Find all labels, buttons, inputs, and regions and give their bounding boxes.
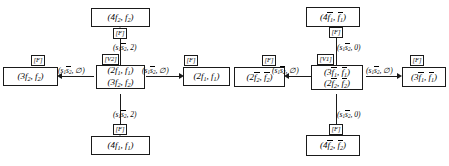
node-right-label: (3f1, f1) bbox=[411, 72, 437, 83]
edge-label-right-h: (s1s2, ∅) bbox=[366, 66, 393, 76]
node-right[interactable]: (3f1, f1) bbox=[402, 67, 446, 87]
node-center-label: (2f1, f1) bbox=[193, 71, 219, 83]
tag-center-F: [F] bbox=[184, 55, 198, 66]
edge-label-mid-h: (s1s2, ∅) bbox=[272, 66, 299, 76]
tag-bottom-right-F: [F] bbox=[329, 124, 343, 135]
tag-center-right-F: [F] bbox=[262, 55, 276, 66]
node-bottom-right[interactable]: (4f2, f2) bbox=[306, 135, 360, 156]
tag-left-F: [F] bbox=[31, 55, 45, 66]
node-center-left[interactable]: (2f1, f1) (3f2, f2) bbox=[96, 65, 145, 89]
node-left-label: (3f2, f2) bbox=[17, 71, 43, 83]
tag-right-F: [F] bbox=[410, 55, 424, 66]
node-center-left-label-2: (3f2, f2) bbox=[107, 77, 133, 89]
edge-label-down-left: (s1s2, 2) bbox=[113, 110, 136, 120]
state-transition-diagram: (4f2, f2) (4f1, f1) (3f2, f2) (2f1, f1) … bbox=[0, 0, 449, 166]
edge-right-horizontal bbox=[366, 76, 398, 77]
edge-left-horizontal bbox=[61, 76, 94, 77]
node-bottom-right-label: (4f2, f2) bbox=[320, 140, 346, 151]
node-center-left-label-1: (2f1, f1) bbox=[107, 65, 133, 77]
tag-center-left-V2: [V2] bbox=[102, 54, 119, 65]
tag-top-right-F: [F] bbox=[329, 27, 343, 38]
node-left[interactable]: (3f2, f2) bbox=[3, 67, 58, 86]
tag-bottom-left-F: [F] bbox=[113, 124, 127, 135]
edge-center-horizontal bbox=[146, 76, 180, 77]
node-right-mid-label-1: (3f1, f1) bbox=[324, 67, 350, 78]
tag-right-mid-V1: [V1] bbox=[317, 54, 334, 65]
tag-top-left-F: [F] bbox=[113, 28, 127, 39]
node-top-right-label: (4f1, f1) bbox=[320, 12, 346, 23]
node-right-mid-label-2: (2f2, f2) bbox=[324, 78, 350, 89]
node-bottom-left-label: (4f1, f1) bbox=[107, 140, 133, 152]
node-top-right[interactable]: (4f1, f1) bbox=[306, 7, 360, 27]
edge-label-left-h: (s1s2, ∅) bbox=[58, 66, 85, 76]
node-center[interactable]: (2f1, f1) bbox=[183, 67, 230, 86]
edge-label-center-h: (s1s2, ∅) bbox=[142, 66, 169, 76]
node-center-right-label: (2f2, f2) bbox=[246, 72, 272, 83]
edge-label-down-right: (s1s2, 0) bbox=[337, 110, 360, 120]
node-right-mid[interactable]: (3f1, f1) (2f2, f2) bbox=[311, 65, 363, 90]
node-top-left[interactable]: (4f2, f2) bbox=[91, 8, 150, 27]
node-bottom-left[interactable]: (4f1, f1) bbox=[91, 136, 150, 155]
edge-label-up-right: (s1s2, 0) bbox=[337, 43, 360, 53]
edge-label-up-left: (s1s2, 2) bbox=[113, 43, 136, 53]
node-top-left-label: (4f2, f2) bbox=[107, 12, 133, 24]
